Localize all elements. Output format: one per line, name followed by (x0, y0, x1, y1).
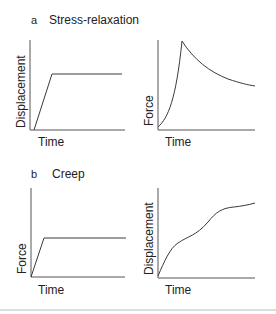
panel-a: a Stress-relaxation Displacement Time Fo… (14, 13, 255, 149)
panel-b: b Creep Force Time Displacement Time (15, 167, 255, 297)
axes (30, 40, 125, 130)
axes (31, 188, 125, 277)
chart-b-displacement: Displacement Time (142, 188, 255, 297)
viscoelasticity-diagram: a Stress-relaxation Displacement Time Fo… (0, 0, 276, 314)
force-curve (31, 238, 126, 277)
panel-a-letter: a (31, 14, 38, 26)
y-axis-label: Displacement (14, 55, 28, 128)
y-axis-label: Force (142, 95, 156, 126)
x-axis-label: Time (165, 283, 192, 297)
chart-a-force: Force Time (142, 40, 255, 149)
panel-a-title: Stress-relaxation (49, 13, 139, 27)
y-axis-label: Force (15, 243, 29, 274)
x-axis-label: Time (38, 283, 65, 297)
chart-b-force: Force Time (15, 188, 126, 297)
force-curve (158, 41, 255, 127)
chart-a-displacement: Displacement Time (14, 40, 125, 149)
panel-b-title: Creep (52, 167, 85, 181)
displacement-curve (34, 74, 122, 130)
axes (158, 40, 255, 130)
y-axis-label: Displacement (142, 202, 156, 275)
displacement-curve (158, 203, 255, 276)
x-axis-label: Time (165, 135, 192, 149)
axes (158, 188, 255, 278)
panel-b-letter: b (31, 168, 37, 180)
x-axis-label: Time (38, 135, 65, 149)
